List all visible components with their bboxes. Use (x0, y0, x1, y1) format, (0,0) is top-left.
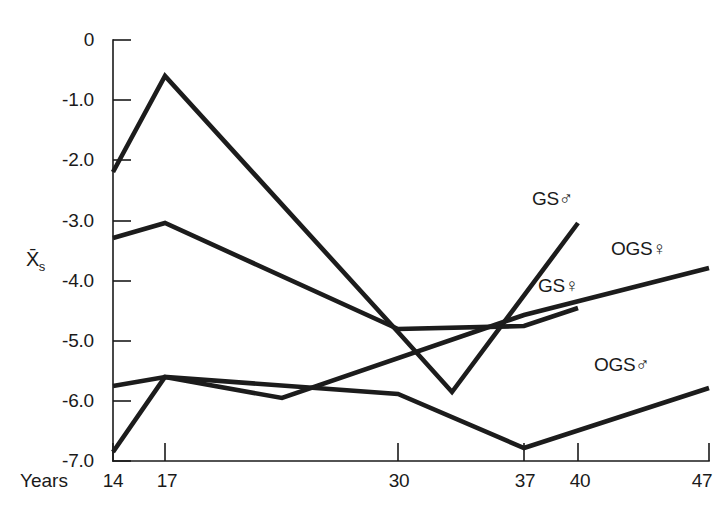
x-tick-label-47: 47 (692, 470, 713, 492)
y-tick-label-3: -3.0 (22, 210, 94, 232)
y-tick-marks (113, 40, 131, 461)
series-label-ogs-male: OGS♂ (594, 354, 649, 376)
series-label-gs-male: GS♂ (532, 188, 573, 210)
y-axis-title-main: X̄ (26, 248, 39, 270)
x-tick-label-40: 40 (570, 470, 591, 492)
y-tick-label-7: -7.0 (22, 450, 94, 472)
series-label-gs-female: GS♀ (538, 275, 579, 297)
series-line-gs-male (113, 76, 578, 392)
series-label-ogs-female: OGS♀ (611, 238, 666, 260)
x-tick-label-14: 14 (103, 470, 124, 492)
y-axis-title: X̄s (26, 248, 45, 274)
x-axis-title: Years (20, 470, 68, 492)
y-tick-label-6: -6.0 (22, 390, 94, 412)
figure-container: 0 -1.0 -2.0 -3.0 -4.0 -5.0 -6.0 -7.0 X̄s… (0, 0, 724, 515)
y-tick-label-0: 0 (22, 29, 94, 51)
y-tick-label-2: -2.0 (22, 149, 94, 171)
x-tick-label-37: 37 (515, 470, 536, 492)
x-tick-marks (113, 443, 709, 461)
y-tick-label-1: -1.0 (22, 89, 94, 111)
series-line-ogs-male (113, 377, 709, 452)
x-tick-label-17: 17 (157, 470, 178, 492)
x-tick-label-30: 30 (389, 470, 410, 492)
y-axis-title-subscript: s (39, 259, 45, 274)
y-tick-label-5: -5.0 (22, 330, 94, 352)
